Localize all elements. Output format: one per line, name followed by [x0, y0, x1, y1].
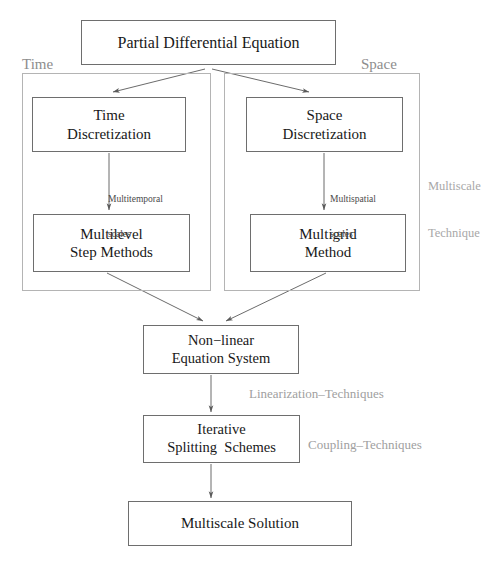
group-label-time: Time — [22, 55, 53, 74]
node-multigrid-method[interactable]: Multigrid Method — [250, 214, 406, 272]
edge-label-multispatial-line1: Multispatial — [330, 194, 376, 206]
edge-label-multispatial-scales: Multispatial scales — [330, 170, 376, 265]
node-title-text: Partial Differential Equation — [118, 33, 300, 53]
node-time-discretization-line1: Time — [93, 106, 124, 124]
node-partial-differential-equation[interactable]: Partial Differential Equation — [81, 20, 336, 65]
node-nonlinear-line1: Non−linear — [188, 332, 254, 350]
diagram-canvas: Time Space Partial Differential Equation… — [0, 0, 484, 570]
edge-label-multispatial-line2: scales — [330, 229, 376, 241]
side-label-multiscale-line1: Multiscale — [428, 179, 481, 195]
side-label-multiscale-technique: Multiscale Technique — [428, 148, 481, 273]
edge-label-multitemporal-scales: Multitemporal scales — [108, 170, 163, 265]
node-space-discretization-line2: Discretization — [282, 125, 366, 143]
node-nonlinear-equation-system[interactable]: Non−linear Equation System — [143, 325, 299, 374]
node-iterative-splitting-schemes[interactable]: Iterative Splitting Schemes — [143, 415, 300, 463]
group-label-space: Space — [361, 55, 397, 74]
node-iterative-line2: Splitting Schemes — [167, 439, 276, 457]
node-time-discretization-line2: Discretization — [67, 125, 151, 143]
node-multiscale-solution-line1: Multiscale Solution — [181, 514, 299, 532]
node-time-discretization[interactable]: Time Discretization — [32, 97, 186, 152]
node-nonlinear-line2: Equation System — [172, 350, 271, 368]
node-multiscale-solution[interactable]: Multiscale Solution — [128, 501, 352, 546]
side-label-multiscale-line2: Technique — [428, 226, 481, 242]
edge-label-coupling-techniques: Coupling–Techniques — [308, 437, 422, 453]
edge-label-linearization-techniques: Linearization–Techniques — [249, 386, 384, 402]
node-iterative-line1: Iterative — [197, 421, 245, 439]
edge-label-multitemporal-line2: scales — [108, 229, 163, 241]
node-space-discretization[interactable]: Space Discretization — [246, 97, 403, 152]
edge-label-multitemporal-line1: Multitemporal — [108, 194, 163, 206]
node-space-discretization-line1: Space — [307, 106, 343, 124]
